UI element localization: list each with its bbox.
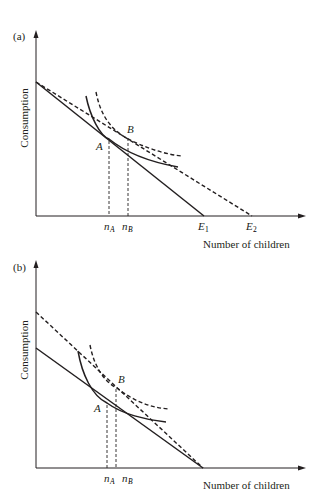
panel-a-y-axis-label: Consumption	[18, 88, 30, 148]
svg-text:2: 2	[253, 225, 257, 234]
panel-a-x-axis-label: Number of children	[203, 238, 290, 250]
svg-text:E: E	[197, 220, 205, 232]
svg-text:B: B	[128, 477, 133, 486]
panel-a-label: (a)	[13, 30, 26, 43]
svg-text:1: 1	[205, 225, 209, 234]
panel-b-tick-nB: n B	[122, 472, 133, 486]
panel-b-point-A: A	[93, 402, 101, 414]
panel-b-y-axis-label: Consumption	[18, 320, 30, 380]
panel-b-tick-nA: n A	[104, 472, 115, 486]
panel-a-tick-nB: n B	[122, 220, 133, 234]
panel-b-budget-line-solid	[36, 348, 203, 468]
panel-b-indifference-curve-solid	[78, 351, 166, 422]
svg-text:A: A	[109, 477, 115, 486]
svg-text:E: E	[245, 220, 253, 232]
panel-a-budget-line-solid	[36, 82, 204, 216]
panel-a-budget-line-dashed	[36, 82, 252, 216]
panel-a-point-B: B	[127, 123, 134, 135]
panel-a-tick-E2: E 2	[245, 220, 257, 234]
panel-a-point-A: A	[95, 140, 103, 152]
panel-b-x-axis-label: Number of children	[203, 479, 290, 491]
panel-b-label: (b)	[13, 261, 26, 274]
panel-a: (a) Consumption A B n A n B E 1 E	[13, 30, 302, 250]
panel-b-point-B: B	[118, 373, 125, 385]
panel-a-tick-E1: E 1	[197, 220, 209, 234]
panel-a-tick-nA: n A	[104, 220, 115, 234]
diagram-canvas: (a) Consumption A B n A n B E 1 E	[0, 0, 313, 491]
svg-text:A: A	[109, 225, 115, 234]
svg-text:B: B	[128, 225, 133, 234]
panel-b: (b) Consumption A B n A n B Number of ch…	[13, 261, 302, 491]
